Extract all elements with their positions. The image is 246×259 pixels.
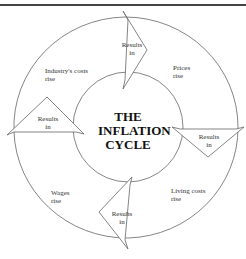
stage-text: rise: [173, 72, 190, 80]
stage-text: rise: [171, 195, 205, 203]
stage-text: Industry's costs: [45, 67, 88, 75]
arrow-text: Results: [108, 210, 136, 218]
diagram-title: THE INFLATION CYCLE: [98, 110, 158, 152]
arrow-text: Results: [34, 115, 62, 123]
arrow-label-top: Results in: [118, 41, 146, 57]
title-line-2: INFLATION: [98, 124, 158, 138]
stage-label-living-costs: Living costs rise: [171, 187, 205, 203]
stage-text: Prices: [173, 64, 190, 72]
stage-text: Living costs: [171, 187, 205, 195]
arrow-text: in: [118, 49, 146, 57]
arrow-text: in: [34, 123, 62, 131]
arrow-text: in: [108, 218, 136, 226]
title-line-3: CYCLE: [98, 138, 158, 152]
stage-label-wages: Wages rise: [51, 189, 69, 205]
stage-label-prices: Prices rise: [173, 64, 190, 80]
title-line-1: THE: [98, 110, 158, 124]
arrow-label-left: Results in: [34, 115, 62, 131]
arrow-label-bottom: Results in: [108, 210, 136, 226]
stage-text: rise: [51, 197, 69, 205]
arrow-label-right: Results in: [195, 133, 223, 149]
arrow-text: Results: [195, 133, 223, 141]
stage-text: rise: [45, 75, 88, 83]
stage-label-industry-costs: Industry's costs rise: [45, 67, 88, 83]
arrow-text: in: [195, 141, 223, 149]
arrow-text: Results: [118, 41, 146, 49]
stage-text: Wages: [51, 189, 69, 197]
